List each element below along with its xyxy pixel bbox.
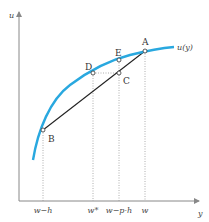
chord-line: [43, 51, 145, 130]
tick-w-minus-h: w−h: [34, 206, 53, 215]
tick-w-star: w*: [88, 206, 99, 215]
tick-w-minus-ph: w−p·h: [106, 206, 132, 215]
point-b: [41, 128, 45, 132]
label-d: D: [85, 62, 92, 72]
point-c: [117, 71, 121, 75]
tick-w: w: [142, 206, 149, 215]
label-b: B: [48, 134, 55, 144]
label-e: E: [115, 48, 122, 58]
utility-diagram: A B C D E u(y) u y w−h w* w−p·h w: [0, 0, 209, 222]
x-axis-label: y: [197, 209, 203, 218]
point-a: [143, 49, 147, 53]
point-e: [117, 58, 121, 62]
label-a: A: [141, 37, 149, 47]
label-c: C: [123, 76, 130, 86]
y-axis-label: u: [9, 11, 14, 20]
curve-label: u(y): [177, 43, 193, 52]
